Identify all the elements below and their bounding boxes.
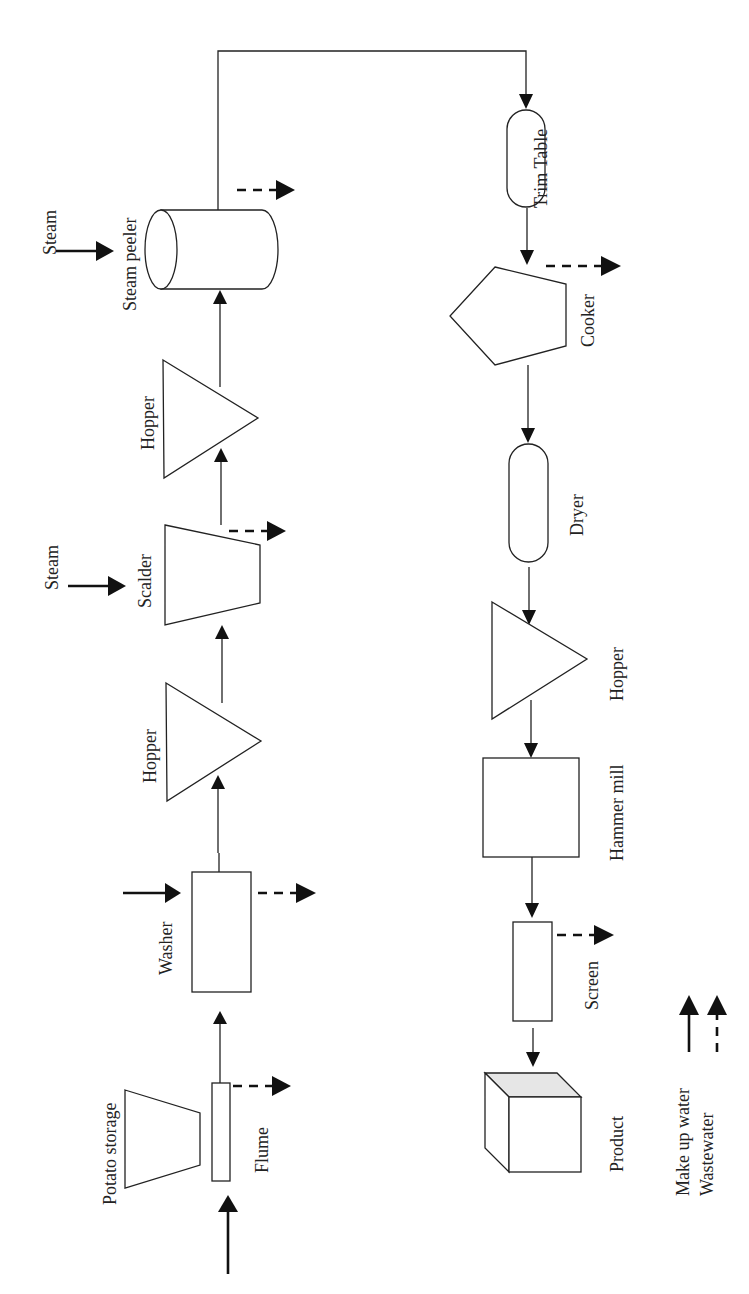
arrowhead-up-icon [218,1195,238,1212]
arrowhead-up-icon [211,775,225,789]
hammer-mill-label: Hammer mill [607,765,627,861]
arrowhead-up-icon [213,290,227,304]
hopper-1-label: Hopper [140,729,160,783]
arrowhead-down-icon [521,428,535,443]
arrowhead-down-icon [526,1052,540,1067]
legend-make-up-water-label: Make up water [673,1088,693,1196]
arrowhead-right-icon [594,925,614,945]
legend: Make up water Wastewater [673,995,727,1196]
flume-label: Flume [252,1127,272,1173]
hopper-3-triangle [492,602,587,719]
hammer-mill-square [483,758,579,857]
product-label: Product [607,1116,627,1172]
steam-peeler-label: Steam peeler [120,218,140,311]
arrowhead-up-icon [707,995,727,1015]
flume-unit: Flume [212,1011,291,1274]
screen-unit: Screen [513,922,614,1067]
arrowhead-down-icon [519,94,533,109]
product-unit: Product [485,1073,627,1172]
scalder-steam-label: Steam [42,545,62,590]
trim-table-unit: Trim Table [507,110,551,265]
dryer-label: Dryer [567,494,587,536]
arrowhead-down-icon [525,903,539,918]
hopper-2-label: Hopper [138,396,158,450]
screen-rect [513,922,552,1021]
scalder-trapezoid [165,525,260,625]
hopper-2-unit: Hopper [138,290,258,478]
potato-storage-unit: Potato storage [100,1090,200,1205]
dryer-capsule [509,444,548,562]
arrowhead-right-icon [108,576,126,596]
arrowhead-down-icon [524,743,538,758]
hammer-mill-unit: Hammer mill [483,758,627,918]
arrowhead-right-icon [296,883,316,903]
washer-unit: Washer [123,853,316,992]
arrowhead-up-icon [215,625,229,639]
arrowhead-right-icon [165,883,181,903]
arrowhead-up-icon [679,995,699,1015]
cooker-pentagon [450,267,566,365]
cooker-unit: Cooker [450,256,621,443]
washer-label: Washer [156,921,176,975]
washer-rect [192,872,251,992]
legend-wastewater-label: Wastewater [697,1112,717,1196]
cooker-label: Cooker [578,294,598,347]
arrowhead-right-icon [276,180,295,200]
arrowhead-down-icon [520,250,534,265]
hopper-1-unit: Hopper [140,625,261,853]
flow-peeler-to-trim-table [218,51,526,210]
trim-table-label: Trim Table [531,129,551,208]
arrowhead-right-icon [267,521,286,541]
arrowhead-right-icon [601,256,621,276]
potato-storage-label: Potato storage [100,1103,120,1205]
hopper-3-label: Hopper [607,647,627,701]
potato-storage-trapezoid [125,1090,200,1188]
arrowhead-up-icon [213,1011,227,1024]
dryer-unit: Dryer [509,444,587,625]
screen-label: Screen [582,961,602,1010]
hopper-1-triangle [166,683,261,801]
arrowhead-right-icon [272,1076,291,1096]
arrowhead-up-icon [214,448,228,462]
peeler-steam-label: Steam [40,210,60,255]
steam-peeler-body [161,210,278,289]
hopper-2-triangle [163,360,258,478]
hopper-3-unit: Hopper [492,602,627,758]
potato-processing-flow-diagram: Potato storage Flume Washer Hopper [0,0,749,1294]
product-cube-front [509,1097,581,1172]
arrowhead-right-icon [96,241,114,261]
steam-peeler-end [145,210,177,289]
steam-peeler-unit: Steam peeler Steam [40,51,533,311]
scalder-label: Scalder [135,554,155,608]
flume-rect [212,1083,230,1181]
